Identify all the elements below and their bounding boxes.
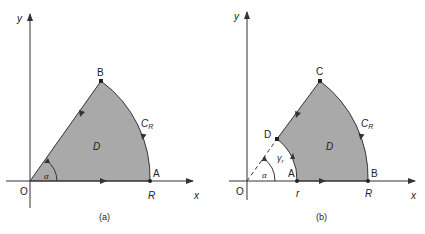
radius-label-a: R — [148, 190, 155, 201]
figure-a: y x O A B R D α CR (a) — [6, 13, 200, 222]
angle-label-b: α — [262, 171, 267, 180]
axis-y-label-b: y — [233, 11, 240, 22]
axis-y-label-a: y — [16, 13, 23, 24]
point-D-b — [275, 137, 279, 141]
axis-x-label-b: x — [410, 190, 417, 201]
sector-region-a — [30, 81, 150, 181]
inner-radius-label-b: r — [296, 188, 300, 199]
annular-sector-region-b — [277, 81, 368, 181]
contour-diagrams: y x O A B R D α CR (a) y x O A B C D r R… — [0, 0, 425, 234]
figure-b: y x O A B C D r R D α CR γr (b) — [229, 11, 417, 222]
point-B-b — [366, 179, 370, 183]
region-label-a: D — [93, 141, 100, 152]
point-C-label-b: C — [316, 66, 323, 77]
point-A-label-b: A — [288, 168, 295, 179]
point-B-label-b: B — [371, 168, 378, 179]
caption-a: (a) — [99, 212, 110, 222]
curve-label-b: CR — [361, 118, 373, 130]
caption-b: (b) — [316, 212, 327, 222]
point-B-a — [99, 79, 103, 83]
radius-label-b: R — [365, 188, 372, 199]
angle-label-a: α — [44, 172, 49, 181]
origin-label-b: O — [236, 186, 244, 197]
axis-x-label-a: x — [193, 190, 200, 201]
region-label-b: D — [326, 141, 333, 152]
point-D-label-b: D — [264, 129, 271, 140]
point-C-b — [318, 79, 322, 83]
point-A-label-a: A — [153, 168, 160, 179]
point-B-label-a: B — [97, 67, 104, 78]
curve-label-a: CR — [141, 118, 153, 130]
point-A-b — [295, 179, 299, 183]
origin-label-a: O — [20, 186, 28, 197]
inner-curve-label-b: γr — [277, 153, 285, 164]
point-A-a — [148, 179, 152, 183]
